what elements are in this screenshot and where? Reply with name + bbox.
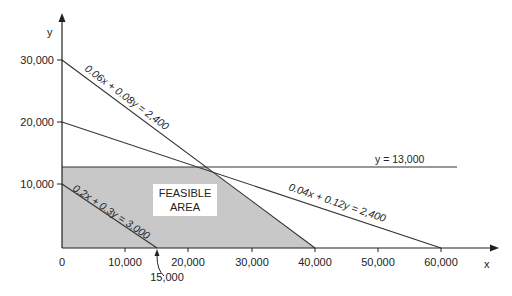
- y-tick-label-20000: 20,000: [20, 116, 54, 128]
- x-tick-label-60000: 60,000: [424, 256, 458, 268]
- feasible-area-label-line2: AREA: [170, 201, 201, 213]
- y-tick-label-10000: 10,000: [20, 178, 54, 190]
- y-axis-label: y: [47, 26, 53, 38]
- x-tick-label-10000: 10,000: [108, 256, 142, 268]
- x-tick-label-30000: 30,000: [235, 256, 269, 268]
- x-tick-label-50000: 50,000: [361, 256, 395, 268]
- y-tick-label-30000: 30,000: [20, 54, 54, 66]
- feasible-area-label-line1: FEASIBLE: [159, 187, 212, 199]
- x-tick-label-0: 0: [59, 256, 65, 268]
- lp-chart: y x 30,000 20,000 10,000 0 10,000 20,000…: [0, 0, 512, 296]
- eq-label-y-13000: y = 13,000: [375, 153, 424, 165]
- x-15000-arrowhead-icon: [155, 249, 160, 256]
- x-axis-arrow-icon: [490, 245, 499, 252]
- x-annotation-15000: 15,000: [150, 271, 184, 283]
- x-axis-label: x: [484, 258, 490, 270]
- x-tick-label-40000: 40,000: [298, 256, 332, 268]
- eq-label-0.06x-0.08y: 0.06x + 0.08y = 2,400: [83, 62, 172, 132]
- x-tick-label-20000: 20,000: [171, 256, 205, 268]
- y-axis-arrow-icon: [59, 13, 66, 22]
